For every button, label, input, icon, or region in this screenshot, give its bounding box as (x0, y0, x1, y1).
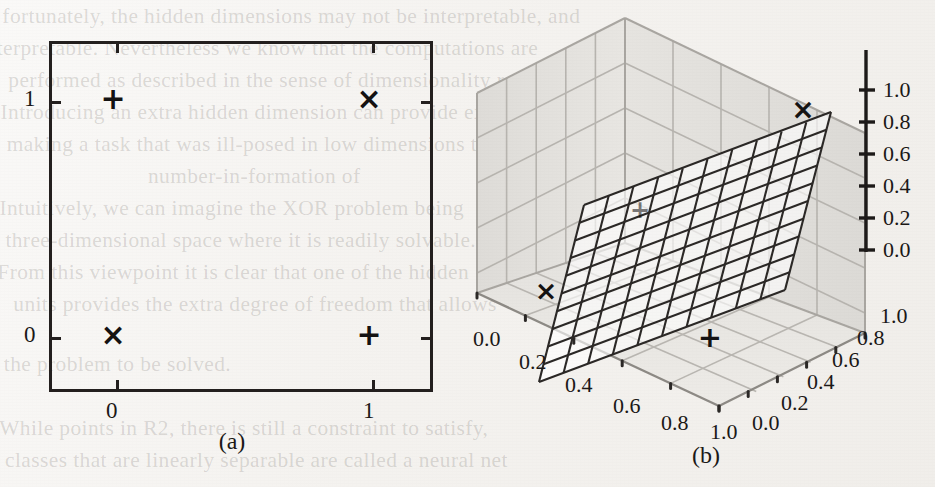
y-axis-label-0: 0 (24, 322, 36, 348)
z-axis-label-0-2: 0.2 (883, 205, 911, 231)
x-axis-label-0-8: 0.8 (661, 410, 689, 436)
z-axis-label-0-6: 0.6 (883, 141, 911, 167)
y-tick-0 (51, 337, 61, 340)
x-tick-1 (372, 380, 375, 390)
data-marker-cross: × (791, 96, 814, 124)
z-axis-label-1-0: 1.0 (883, 77, 911, 103)
data-marker-plus: + (698, 323, 722, 352)
data-marker-plus: + (100, 84, 125, 114)
axes-3d-svg (467, 0, 935, 487)
data-marker-plus: + (630, 198, 650, 222)
panel-a-2d-plot: 0 1 0 1 × + + × (a) (0, 0, 467, 487)
x-tick-top-0 (116, 43, 119, 53)
caption-panel-b: (b) (692, 442, 720, 469)
z-axis-label-0-4: 0.4 (883, 173, 911, 199)
y-tick-1 (51, 101, 61, 104)
x-tick-top-1 (372, 43, 375, 53)
y-axis-label-0-6: 0.6 (832, 347, 860, 373)
data-marker-cross: × (356, 84, 381, 114)
x-axis-label-0: 0 (106, 398, 118, 424)
data-marker-cross: × (100, 320, 125, 350)
x-axis-label-1: 1 (363, 398, 375, 424)
y-axis-label-1: 1 (24, 86, 36, 112)
data-marker-cross: × (535, 277, 558, 304)
x-axis-label-0-2: 0.2 (519, 349, 547, 375)
x-axis-label-0-0: 0.0 (473, 326, 501, 352)
z-axis-label-0-0: 0.0 (883, 237, 911, 263)
y-axis-label-1-0: 1.0 (880, 303, 908, 329)
data-marker-plus: + (356, 320, 381, 350)
y-axis-label-0-4: 0.4 (807, 369, 835, 395)
y-tick-right-0 (421, 337, 431, 340)
caption-panel-a: (a) (219, 428, 246, 455)
panel-b-3d-plot: 1.0 0.8 0.6 0.4 0.2 0.0 0.0 0.2 0.4 0.6 … (467, 0, 935, 487)
x-tick-0 (116, 380, 119, 390)
z-axis-label-0-8: 0.8 (883, 109, 911, 135)
y-tick-right-1 (421, 101, 431, 104)
figure-root: fortunately, the hidden dimensions may n… (0, 0, 935, 487)
x-axis-label-0-6: 0.6 (613, 393, 641, 419)
y-axis-label-0-2: 0.2 (781, 390, 809, 416)
x-axis-label-0-4: 0.4 (565, 372, 593, 398)
y-axis-label-0-0: 0.0 (752, 410, 780, 436)
